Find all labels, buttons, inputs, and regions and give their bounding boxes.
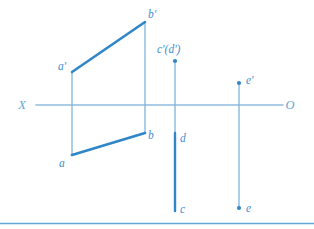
axis-label-x: X — [17, 98, 27, 112]
label-e: e — [246, 202, 251, 214]
projection-figure: X O a' b' a b c'(d') d c e' e — [0, 0, 314, 229]
label-d: d — [180, 132, 186, 144]
point-c-prime-d-prime-dot — [173, 59, 177, 63]
label-c-prime-d-prime: c'(d') — [157, 43, 181, 56]
figure-background — [0, 0, 314, 229]
label-c: c — [180, 203, 185, 215]
figure-canvas: X O a' b' a b c'(d') d c e' e — [0, 0, 314, 229]
label-b: b — [148, 129, 154, 141]
label-e-prime: e' — [246, 74, 254, 86]
label-a-prime: a' — [58, 60, 67, 72]
point-e-prime-dot — [237, 81, 241, 85]
label-a: a — [59, 157, 65, 169]
label-b-prime: b' — [148, 8, 157, 20]
point-e-dot — [237, 206, 241, 210]
axis-label-o: O — [285, 98, 294, 112]
